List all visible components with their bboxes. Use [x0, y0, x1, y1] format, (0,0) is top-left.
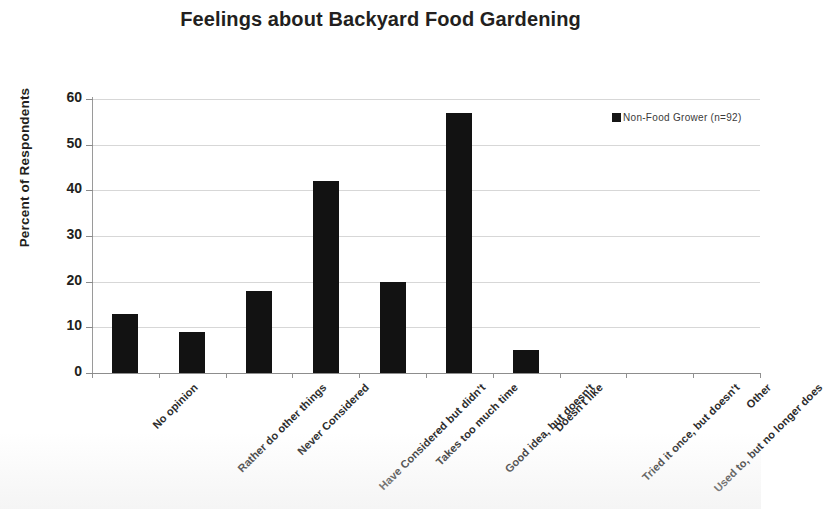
bar [513, 350, 539, 373]
gridline [92, 190, 760, 191]
y-axis-tick-label: 30 [38, 226, 82, 242]
x-axis-tick-label: Tried it once, but doesn't [640, 381, 742, 483]
legend-swatch-icon [612, 113, 621, 122]
plot-area [92, 99, 760, 373]
bar [179, 332, 205, 373]
bar [313, 181, 339, 373]
gridline [92, 99, 760, 100]
bar [380, 282, 406, 373]
y-axis-tick [86, 373, 93, 374]
y-axis-tick [86, 145, 93, 146]
bar [112, 314, 138, 373]
y-axis-tick [86, 327, 93, 328]
y-axis-tick-label: 10 [38, 317, 82, 333]
bar [446, 113, 472, 373]
y-axis-tick-label: 20 [38, 272, 82, 288]
y-axis-tick [86, 282, 93, 283]
legend-label: Non-Food Grower (n=92) [623, 112, 742, 123]
x-axis-tick-label: Never Considered [295, 381, 371, 457]
y-axis-tick [86, 190, 93, 191]
y-axis-tick-label: 40 [38, 180, 82, 196]
chart-title: Feelings about Backyard Food Gardening [0, 8, 761, 31]
y-axis-tick-label: 60 [38, 89, 82, 105]
x-axis-tick-label: Other [743, 381, 773, 411]
gridline [92, 282, 760, 283]
bar [246, 291, 272, 373]
y-axis-tick [86, 99, 93, 100]
gridline [92, 145, 760, 146]
gridline [92, 236, 760, 237]
x-axis-tick-label: No opinion [151, 381, 201, 431]
y-axis-tick-label: 50 [38, 135, 82, 151]
chart-legend: Non-Food Grower (n=92) [612, 112, 742, 123]
gridline [92, 327, 760, 328]
y-axis-tick [86, 236, 93, 237]
x-axis-tick-labels: No opinionRather do other thingsNever Co… [0, 373, 761, 509]
